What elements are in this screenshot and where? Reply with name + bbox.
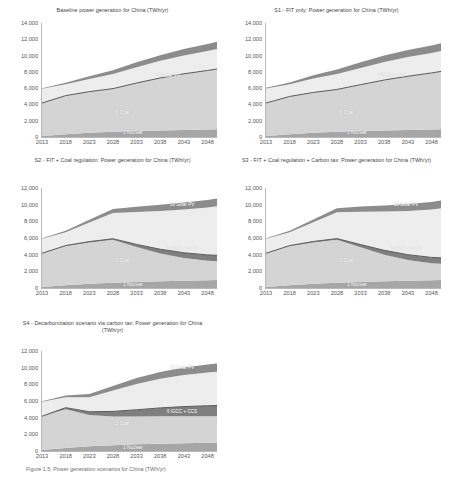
x-axis-tick-label: 2033 [354,290,366,296]
series-annotation: 19 Solar PV [394,202,419,207]
plot-canvas [266,23,441,137]
x-axis-tick-label: 2048 [201,139,213,145]
y-axis-tick-label: 0 [2,285,38,291]
series-annotation: 1 Nuclear [347,281,367,286]
y-axis-line [41,188,42,289]
x-axis-tick-label: 2028 [331,290,343,296]
x-axis-line [266,288,441,289]
series-annotation: 3 Coal [116,109,129,114]
y-axis-tick-label: 0 [226,285,262,291]
series-annotation: 1 Nuclear [123,281,143,286]
series-annotation: 1 Nuclear [123,129,143,134]
chart-panel-baseline: Baseline power generation for China (TWh… [0,4,225,156]
x-axis-tick-label: 2043 [178,453,190,459]
x-axis-tick-label: 2033 [130,290,142,296]
y-axis-tick-label: 2,000 [2,118,38,124]
x-axis-tick-label: 2038 [154,139,166,145]
x-axis-tick-label: 2028 [331,139,343,145]
y-axis-tick-label: 14,000 [226,20,262,26]
plot-area: 02,0004,0006,0008,00010,00012,0002013201… [42,351,217,451]
chart-panel-s2: S2 - FIT + Coal regulation: Power genera… [0,155,225,315]
stacked-area-plot [266,23,441,137]
y-axis-line [41,351,42,452]
y-axis-tick-label: 12,000 [226,36,262,42]
x-axis-tick-label: 2043 [178,139,190,145]
x-axis-tick-label: 2033 [130,453,142,459]
x-axis-tick-label: 2013 [36,290,48,296]
x-axis-tick-label: 2018 [59,290,71,296]
x-axis-tick-label: 2013 [260,290,272,296]
y-axis-tick-label: 4,000 [226,101,262,107]
y-axis-tick-label: 2,000 [226,118,262,124]
y-axis-tick-label: 2,000 [2,431,38,437]
series-annotation: 19 Solar PV [156,73,181,78]
series-annotation: 6 IGCC + CCS [167,409,197,414]
x-axis-tick-label: 2028 [107,290,119,296]
y-axis-tick-label: 12,000 [2,185,38,191]
x-axis-tick-label: 2013 [36,139,48,145]
plot-area: 02,0004,0006,0008,00010,00012,00014,0002… [266,23,441,137]
y-axis-tick-label: 0 [2,448,38,454]
y-axis-tick-label: 6,000 [2,235,38,241]
x-axis-tick-label: 2038 [378,290,390,296]
x-axis-tick-label: 2038 [154,290,166,296]
y-axis-tick-label: 6,000 [2,398,38,404]
y-axis-tick-label: 12,000 [2,348,38,354]
plot-area: 02,0004,0006,0008,00010,00012,0002013201… [266,188,441,288]
series-annotation: 1 Nuclear [123,444,143,449]
x-axis-tick-label: 2023 [307,290,319,296]
series-annotation: 6 IGCC + CCS [167,246,197,251]
y-axis-tick-label: 6,000 [226,85,262,91]
y-axis-tick-label: 8,000 [2,381,38,387]
x-axis-tick-label: 2013 [260,139,272,145]
x-axis-tick-label: 2018 [59,139,71,145]
chart-title: S4 - Decarbonization scenario via carbon… [0,320,225,334]
y-axis-tick-label: 10,000 [226,53,262,59]
x-axis-tick-label: 2043 [402,139,414,145]
chart-title: S3 - FIT + Coal regulation + Carbon tax:… [224,157,449,164]
figure-caption: Figure 1.5: Power generation scenarios f… [26,466,436,478]
series-annotation: 3 Coal [116,258,129,263]
y-axis-tick-label: 2,000 [226,268,262,274]
plot-area: 02,0004,0006,0008,00010,00012,00014,0002… [42,23,217,137]
y-axis-line [265,188,266,289]
figure-sheet: Baseline power generation for China (TWh… [0,0,449,479]
y-axis-tick-label: 2,000 [2,268,38,274]
x-axis-tick-label: 2043 [178,290,190,296]
chart-title: S1 - FIT only: Power generation for Chin… [224,7,449,14]
x-axis-line [42,451,217,452]
y-axis-tick-label: 6,000 [226,235,262,241]
x-axis-tick-label: 2048 [201,290,213,296]
chart-title: Baseline power generation for China (TWh… [0,7,225,14]
y-axis-tick-label: 8,000 [226,218,262,224]
y-axis-tick-label: 4,000 [226,252,262,258]
x-axis-tick-label: 2048 [425,290,437,296]
x-axis-tick-label: 2013 [36,453,48,459]
x-axis-tick-label: 2048 [201,453,213,459]
x-axis-tick-label: 2033 [354,139,366,145]
series-annotation: 3 Coal [340,258,353,263]
x-axis-tick-label: 2033 [130,139,142,145]
stacked-area-plot [42,23,217,137]
x-axis-tick-label: 2038 [154,453,166,459]
x-axis-tick-label: 2023 [83,290,95,296]
x-axis-tick-label: 2028 [107,453,119,459]
x-axis-line [42,288,217,289]
plot-area: 02,0004,0006,0008,00010,00012,0002013201… [42,188,217,288]
series-annotation: 3 Coal [116,421,129,426]
y-axis-tick-label: 6,000 [2,85,38,91]
y-axis-tick-label: 10,000 [226,202,262,208]
series-annotation: 1 Nuclear [347,129,367,134]
plot-canvas [42,23,217,137]
x-axis-tick-label: 2048 [425,139,437,145]
x-axis-tick-label: 2023 [307,139,319,145]
x-axis-line [42,137,217,138]
y-axis-tick-label: 12,000 [226,185,262,191]
series-annotation: 6 IGCC + CCS [391,246,421,251]
y-axis-line [41,23,42,138]
y-axis-line [265,23,266,138]
y-axis-tick-label: 10,000 [2,365,38,371]
chart-panel-s4: S4 - Decarbonization scenario via carbon… [0,318,225,478]
y-axis-tick-label: 10,000 [2,53,38,59]
y-axis-tick-label: 4,000 [2,415,38,421]
